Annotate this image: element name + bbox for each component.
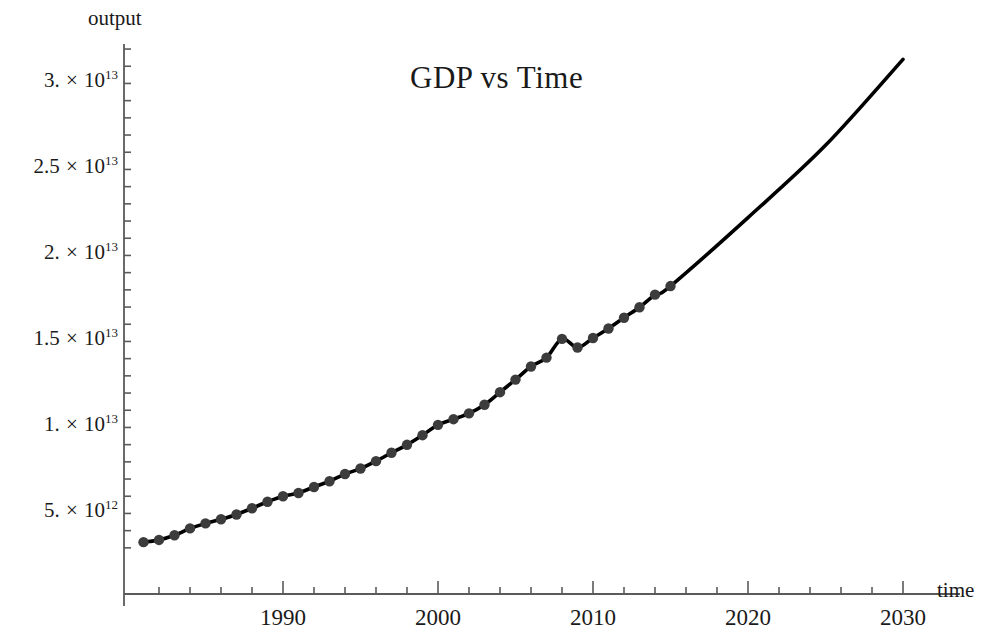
y-tick-label: 1.5 × 1013	[33, 326, 118, 351]
y-axis-ticks	[124, 49, 131, 548]
y-tick-label: 2. × 1013	[44, 240, 118, 265]
y-tick-label: 5. × 1012	[44, 498, 118, 523]
chart-title: GDP vs Time	[410, 62, 583, 93]
x-tick-label: 2000	[415, 605, 461, 631]
y-tick-label: 2.5 × 1013	[33, 154, 118, 179]
y-tick-label: 1. × 1013	[44, 412, 118, 437]
gdp-vs-time-chart: GDP vs Time output time 5. × 10121. × 10…	[0, 0, 989, 634]
y-axis-label: output	[88, 8, 142, 29]
projection-curve	[144, 59, 904, 542]
x-axis-ticks	[159, 581, 903, 594]
x-tick-label: 2030	[880, 605, 926, 631]
data-point-markers	[138, 281, 675, 548]
x-tick-label: 2010	[570, 605, 616, 631]
x-tick-label: 1990	[260, 605, 306, 631]
axis-lines	[124, 44, 960, 606]
y-tick-label: 3. × 1013	[44, 68, 118, 93]
x-axis-label: time	[937, 580, 974, 601]
x-tick-label: 2020	[725, 605, 771, 631]
chart-canvas	[0, 0, 989, 634]
